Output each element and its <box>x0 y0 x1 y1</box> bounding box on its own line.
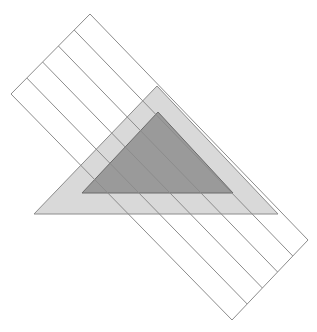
shapes-figure: overlapping-shapes-diagram <box>0 0 317 332</box>
